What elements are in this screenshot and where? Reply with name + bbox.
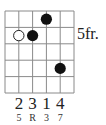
interval-label: 5: [12, 112, 26, 123]
hollow-dot-icon: [14, 30, 24, 40]
finger-dot-icon: [27, 30, 38, 41]
interval-label: 7: [53, 112, 67, 123]
chord-diagram: 5fr. 2 3 1 4 5 R 3 7: [0, 0, 106, 125]
finger-dot-icon: [55, 63, 66, 74]
interval-label: 3: [39, 112, 53, 123]
interval-label: R: [26, 112, 40, 123]
start-fret-label: 5fr.: [77, 26, 99, 42]
finger-label: 4: [53, 96, 67, 112]
finger-label: 2: [12, 96, 26, 112]
finger-dot-icon: [41, 14, 52, 25]
finger-label: 1: [39, 96, 53, 112]
finger-label: 3: [26, 96, 40, 112]
